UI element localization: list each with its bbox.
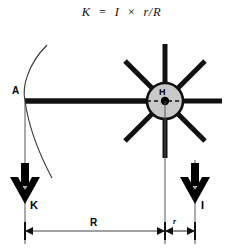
- force-arrow-i: [180, 163, 210, 204]
- dimension-r-arrowhead-left: [165, 227, 173, 235]
- label-dimension-r: r: [173, 218, 176, 226]
- label-point-a: A: [12, 86, 19, 96]
- rim-arc: [24, 45, 52, 178]
- force-arrow-i-shaft: [191, 163, 199, 186]
- dimension-R-arrowhead-left: [25, 227, 33, 235]
- label-force-k: K: [30, 200, 38, 211]
- force-arrow-k-shaft: [21, 163, 29, 186]
- label-hub: H: [159, 88, 166, 97]
- dimension-r: [165, 222, 195, 240]
- wheel-spoke-tension-diagram: K = I × r/R A H K I R r: [0, 0, 243, 250]
- dimension-r-arrowhead-right: [187, 227, 195, 235]
- label-dimension-R: R: [90, 218, 97, 228]
- diagram-canvas: [0, 0, 243, 250]
- dimension-R-arrowhead-right: [157, 227, 165, 235]
- label-force-i: I: [201, 200, 204, 211]
- force-arrow-k: [10, 163, 40, 204]
- spoke-group: [25, 44, 222, 158]
- formula-caption: K = I × r/R: [0, 5, 243, 20]
